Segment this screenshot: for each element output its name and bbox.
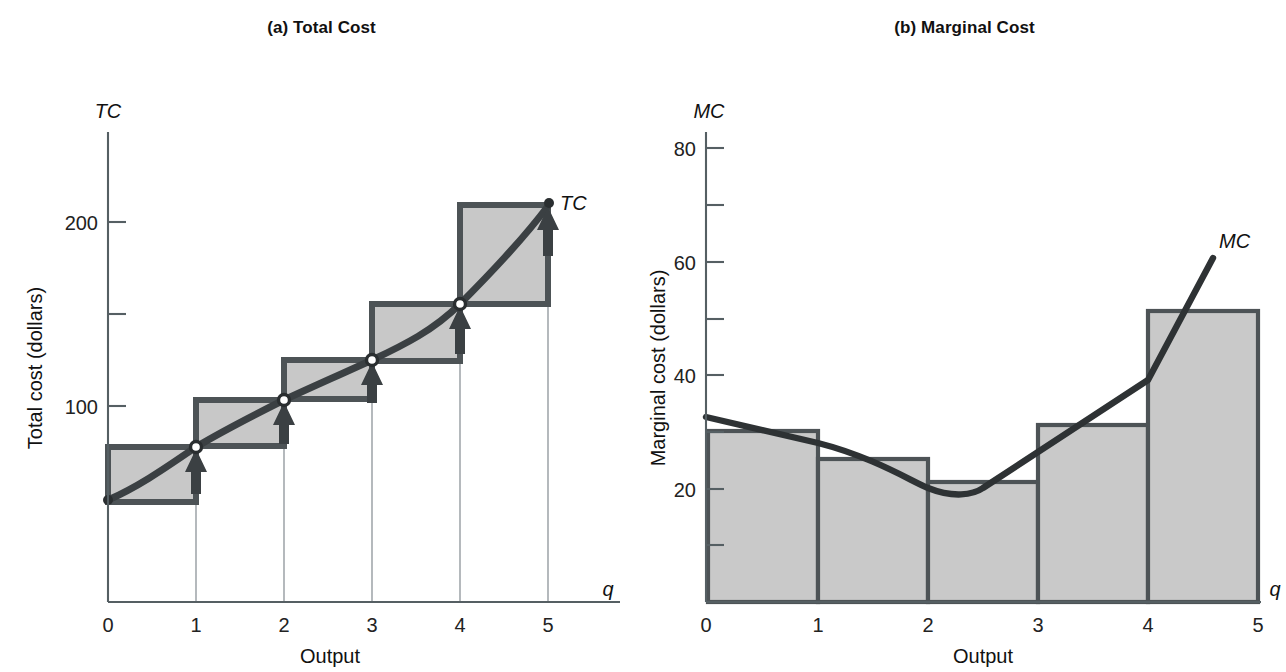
- x-tick-label-b-4: 4: [1142, 614, 1153, 636]
- x-tick-label-b-0: 0: [700, 614, 711, 636]
- total-cost-chart: 0 1 2 3 4 5 200 100 TC q Output Total co…: [0, 0, 643, 672]
- y-axis-symbol-a: TC: [95, 100, 122, 122]
- y-axis-title-a: Total cost (dollars): [24, 287, 46, 449]
- x-axis-symbol-b: q: [1269, 578, 1280, 600]
- mc-bar-1: [708, 431, 818, 602]
- mc-bar-4: [1038, 425, 1148, 602]
- tc-point-q4: [455, 299, 466, 310]
- x-tick-label-b-2: 2: [922, 614, 933, 636]
- x-tick-label-0: 0: [102, 614, 113, 636]
- y-axis-title-b: Marginal cost (dollars): [647, 270, 669, 467]
- x-tick-label-4: 4: [454, 614, 465, 636]
- x-tick-label-2: 2: [278, 614, 289, 636]
- panel-marginal-cost: (b) Marginal Cost: [643, 0, 1286, 672]
- y-tick-label-200: 200: [65, 212, 98, 234]
- y-tick-labels-a: 200 100: [65, 212, 98, 418]
- mc-bar-3: [928, 482, 1038, 602]
- y-tick-labels-b: 80 60 40 20: [674, 138, 696, 501]
- x-tick-label-3: 3: [366, 614, 377, 636]
- x-tick-label-b-5: 5: [1252, 614, 1263, 636]
- panel-total-cost: (a) Total Cost: [0, 0, 643, 672]
- x-axis-title-a: Output: [300, 645, 360, 667]
- x-tick-label-b-1: 1: [812, 614, 823, 636]
- x-axis-title-b: Output: [953, 645, 1013, 667]
- y-tick-label-40: 40: [674, 365, 696, 387]
- tc-point-q2: [279, 395, 290, 406]
- tc-point-q1: [191, 442, 202, 453]
- x-tick-label-1: 1: [190, 614, 201, 636]
- mc-curve-label: MC: [1219, 230, 1251, 252]
- tc-curve-label: TC: [560, 192, 587, 214]
- y-axis-symbol-b: MC: [693, 100, 725, 122]
- x-tick-labels-b: 0 1 2 3 4 5: [700, 614, 1263, 636]
- x-tick-label-5: 5: [542, 614, 553, 636]
- economics-figure: (a) Total Cost: [0, 0, 1286, 672]
- y-tick-label-80: 80: [674, 138, 696, 160]
- x-tick-labels-a: 0 1 2 3 4 5: [102, 614, 553, 636]
- x-tick-label-b-3: 3: [1032, 614, 1043, 636]
- marginal-cost-chart: 80 60 40 20 0 1 2 3 4 5 MC q Output Marg…: [643, 0, 1286, 672]
- mc-bars: [708, 311, 1258, 602]
- tc-point-q5: [544, 198, 554, 208]
- y-tick-label-20: 20: [674, 479, 696, 501]
- tc-point-q3: [367, 355, 378, 366]
- x-axis-symbol-a: q: [602, 578, 613, 600]
- y-tick-label-60: 60: [674, 252, 696, 274]
- y-ticks-a: [108, 222, 126, 406]
- step-boxes-a: [108, 205, 548, 502]
- y-tick-label-100: 100: [65, 396, 98, 418]
